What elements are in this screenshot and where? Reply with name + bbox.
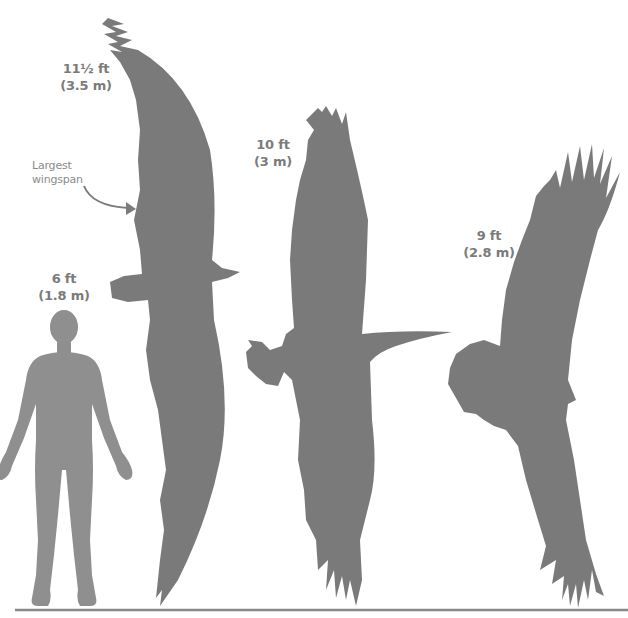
- arrow-head-icon: [126, 202, 136, 215]
- bird-middle-silhouette: [246, 106, 452, 606]
- human-m: (1.8 m): [32, 287, 96, 304]
- largest-wingspan-annotation: Largest wingspan: [32, 159, 102, 187]
- bird-middle-label: 10 ft (3 m): [248, 136, 298, 170]
- human-label: 6 ft (1.8 m): [32, 270, 96, 304]
- bird-largest-m: (3.5 m): [54, 77, 118, 94]
- bird-largest-silhouette: [102, 18, 240, 606]
- bird-middle-m: (3 m): [248, 153, 298, 170]
- bird-right-label: 9 ft (2.8 m): [458, 227, 520, 261]
- wingspan-comparison-figure: 11½ ft (3.5 m) Largest wingspan 10 ft (3…: [0, 0, 628, 618]
- bird-right-ft: 9 ft: [458, 227, 520, 244]
- bird-middle-ft: 10 ft: [248, 136, 298, 153]
- human-silhouette: [0, 310, 132, 606]
- annotation-line-1: Largest: [32, 159, 102, 173]
- bird-right-m: (2.8 m): [458, 244, 520, 261]
- bird-largest-label: 11½ ft (3.5 m): [54, 60, 118, 94]
- annotation-arrow: [84, 186, 136, 215]
- human-ft: 6 ft: [32, 270, 96, 287]
- bird-largest-ft: 11½ ft: [54, 60, 118, 77]
- bird-right-silhouette: [448, 144, 620, 608]
- annotation-line-2: wingspan: [32, 173, 102, 187]
